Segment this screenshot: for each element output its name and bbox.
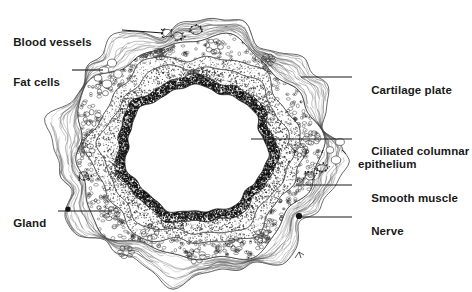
nerve-dot bbox=[296, 213, 302, 219]
label-blood-vessels: Blood vessels bbox=[0, 22, 30, 63]
label-cartilage-plate-text: Cartilage plate bbox=[371, 84, 452, 96]
label-nerve: Nerve bbox=[358, 211, 404, 252]
label-smooth-muscle-text: Smooth muscle bbox=[371, 192, 458, 204]
label-gland-text: Gland bbox=[13, 217, 46, 229]
artist-signature bbox=[295, 252, 304, 258]
label-ciliated-columnar-epithelium-text: Ciliated columnar epithelium bbox=[358, 145, 469, 171]
label-ciliated-columnar-epithelium: Ciliated columnar epithelium bbox=[358, 131, 469, 185]
label-blood-vessels-text: Blood vessels bbox=[13, 36, 92, 48]
label-fat-cells-text: Fat cells bbox=[13, 76, 60, 88]
label-cartilage-plate: Cartilage plate bbox=[358, 70, 452, 111]
label-nerve-text: Nerve bbox=[371, 225, 403, 237]
label-fat-cells: Fat cells bbox=[0, 62, 18, 103]
gland-dot bbox=[65, 206, 70, 211]
histology-figure: Blood vessels Fat cells Gland Cartilage … bbox=[0, 0, 472, 292]
label-gland: Gland bbox=[0, 203, 12, 244]
